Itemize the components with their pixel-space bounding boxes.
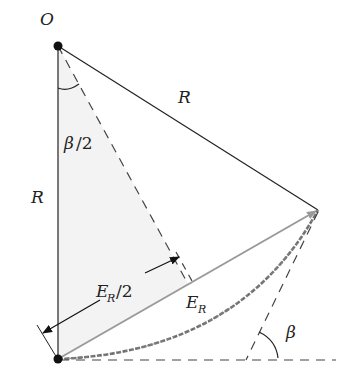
svg-text:/2: /2 (116, 281, 133, 301)
svg-text:R: R (106, 292, 115, 305)
chord-label: E R (185, 292, 206, 316)
origin-label: O (40, 9, 54, 29)
svg-text:β: β (63, 133, 74, 153)
half-angle-label: β /2 (63, 133, 93, 153)
dimension-tick (37, 325, 57, 358)
beta-label: β (285, 322, 296, 342)
radius-left-label: R (30, 187, 44, 207)
svg-text:/2: /2 (76, 133, 93, 153)
beta-angle-arc (259, 332, 278, 358)
bottom-point (54, 355, 63, 364)
svg-text:E: E (185, 292, 199, 312)
phasor-diagram: O R R β /2 E R /2 E R β (0, 0, 348, 384)
origin-point (54, 42, 63, 51)
radius-top-label: R (177, 87, 191, 107)
shaded-triangle (58, 46, 188, 359)
svg-text:R: R (197, 303, 206, 316)
